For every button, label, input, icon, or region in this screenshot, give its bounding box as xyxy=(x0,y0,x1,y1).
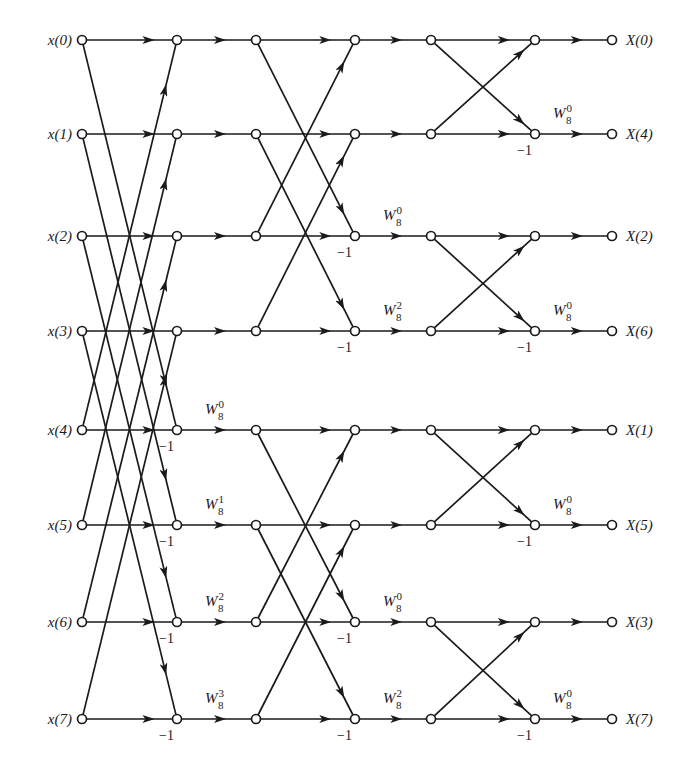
node xyxy=(427,327,436,336)
node xyxy=(531,232,540,241)
input-node xyxy=(78,521,87,530)
output-node xyxy=(608,327,617,336)
node xyxy=(351,130,360,139)
output-label: X(2) xyxy=(625,228,653,245)
edges-layer xyxy=(83,40,607,719)
minus-one-label: −1 xyxy=(337,728,352,743)
node xyxy=(531,426,540,435)
twiddle-factor-label: W08 xyxy=(205,398,225,422)
node xyxy=(252,36,261,45)
minus-one-label: −1 xyxy=(159,534,174,549)
minus-one-label: −1 xyxy=(517,728,532,743)
nodes-layer xyxy=(78,36,617,724)
output-label: X(7) xyxy=(625,711,653,728)
twiddle-factor-label: W08 xyxy=(553,102,573,126)
labels-layer: −1−1−1−1W08W18W28W38−1−1−1−1W08W28W08W28… xyxy=(47,32,653,743)
output-node xyxy=(608,232,617,241)
node xyxy=(351,618,360,627)
input-node xyxy=(78,327,87,336)
node xyxy=(351,232,360,241)
node xyxy=(173,618,182,627)
output-node xyxy=(608,130,617,139)
node xyxy=(427,130,436,139)
node xyxy=(427,232,436,241)
minus-one-label: −1 xyxy=(517,340,532,355)
input-label: x(7) xyxy=(47,711,72,728)
twiddle-factor-label: W08 xyxy=(553,299,573,323)
node xyxy=(531,618,540,627)
minus-one-label: −1 xyxy=(159,631,174,646)
node xyxy=(531,130,540,139)
node xyxy=(427,36,436,45)
output-node xyxy=(608,36,617,45)
output-node xyxy=(608,521,617,530)
node xyxy=(427,618,436,627)
node xyxy=(173,426,182,435)
node xyxy=(351,426,360,435)
node xyxy=(252,327,261,336)
twiddle-factor-label: W08 xyxy=(553,687,573,711)
output-node xyxy=(608,618,617,627)
minus-one-label: −1 xyxy=(517,534,532,549)
minus-one-label: −1 xyxy=(337,340,352,355)
output-label: X(0) xyxy=(625,32,653,49)
node xyxy=(252,232,261,241)
node xyxy=(173,232,182,241)
node xyxy=(252,521,261,530)
node xyxy=(351,327,360,336)
minus-one-label: −1 xyxy=(159,728,174,743)
node xyxy=(531,327,540,336)
minus-one-label: −1 xyxy=(337,631,352,646)
node xyxy=(252,130,261,139)
node xyxy=(173,36,182,45)
node xyxy=(252,426,261,435)
twiddle-factor-label: W08 xyxy=(553,493,573,517)
node xyxy=(173,521,182,530)
node xyxy=(252,618,261,627)
input-label: x(4) xyxy=(47,422,72,439)
twiddle-factor-label: W08 xyxy=(383,590,403,614)
input-label: x(5) xyxy=(47,517,72,534)
output-node xyxy=(608,426,617,435)
input-label: x(1) xyxy=(47,126,72,143)
twiddle-factor-label: W28 xyxy=(205,590,224,614)
input-node xyxy=(78,426,87,435)
input-node xyxy=(78,130,87,139)
output-label: X(6) xyxy=(625,323,653,340)
fft-flow-graph: −1−1−1−1W08W18W28W38−1−1−1−1W08W28W08W28… xyxy=(0,0,692,775)
node xyxy=(351,36,360,45)
output-label: X(5) xyxy=(625,517,653,534)
node xyxy=(427,521,436,530)
node xyxy=(531,36,540,45)
twiddle-factor-label: W38 xyxy=(205,687,225,711)
input-node xyxy=(78,618,87,627)
node xyxy=(427,715,436,724)
node xyxy=(351,521,360,530)
node xyxy=(173,130,182,139)
minus-one-label: −1 xyxy=(517,143,532,158)
input-label: x(0) xyxy=(47,32,72,49)
minus-one-label: −1 xyxy=(337,245,352,260)
output-label: X(3) xyxy=(625,614,653,631)
twiddle-factor-label: W08 xyxy=(383,204,403,228)
node xyxy=(252,715,261,724)
input-label: x(2) xyxy=(47,228,72,245)
minus-one-label: −1 xyxy=(159,439,174,454)
twiddle-factor-label: W28 xyxy=(383,687,402,711)
node xyxy=(351,715,360,724)
node xyxy=(173,327,182,336)
input-node xyxy=(78,715,87,724)
node xyxy=(427,426,436,435)
node xyxy=(531,715,540,724)
input-label: x(6) xyxy=(47,614,72,631)
input-node xyxy=(78,232,87,241)
output-label: X(4) xyxy=(625,126,653,143)
node xyxy=(531,521,540,530)
twiddle-factor-label: W28 xyxy=(383,299,402,323)
twiddle-factor-label: W18 xyxy=(205,493,224,517)
node xyxy=(173,715,182,724)
output-node xyxy=(608,715,617,724)
input-node xyxy=(78,36,87,45)
input-label: x(3) xyxy=(47,323,72,340)
output-label: X(1) xyxy=(625,422,653,439)
